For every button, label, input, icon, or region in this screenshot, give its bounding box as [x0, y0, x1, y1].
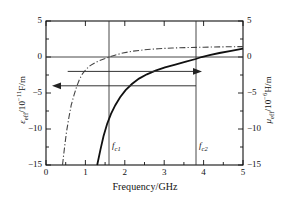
figure-container: 0 1 2 3 4 5 5 0 −5 −10 −15 5 0 −5 −10 −1… — [0, 0, 290, 202]
y-axis-right-title: μeff/10−6H/m — [261, 40, 275, 160]
x-axis-title: Frequency/GHz — [46, 181, 244, 192]
fc1-label: fc1 — [112, 140, 121, 152]
epsilon-eff-curve — [63, 47, 244, 165]
y-right-tick-label-m15: −15 — [247, 159, 273, 169]
epsilon-units-post: F/m — [17, 76, 27, 91]
fc2-label-sub: c2 — [202, 145, 208, 152]
y-axis-left-title: εeff/10−11F/m — [15, 40, 29, 160]
x-axis-ticks — [46, 21, 243, 165]
x-tick-label-3: 3 — [155, 167, 173, 177]
y-right-tick-label-5: 5 — [247, 15, 273, 25]
epsilon-subscript: eff — [22, 113, 29, 120]
plot-frame — [46, 21, 243, 165]
y-axis-left-ticks — [46, 21, 51, 165]
epsilon-symbol: ε — [17, 120, 27, 124]
mu-units-pre: /10 — [263, 100, 273, 112]
fc2-label: fc2 — [199, 140, 208, 152]
epsilon-units-pre: /10 — [17, 101, 27, 113]
y-axis-right-ticks — [238, 21, 243, 165]
y-left-tick-label-5: 5 — [16, 15, 42, 25]
mu-units-post: H/m — [263, 76, 273, 92]
x-tick-label-4: 4 — [195, 167, 213, 177]
mu-exponent: −6 — [261, 93, 268, 100]
left-axis-arrow — [52, 82, 196, 89]
mu-symbol: μ — [263, 119, 273, 124]
y-left-tick-label-m15: −15 — [16, 159, 42, 169]
x-tick-label-1: 1 — [76, 167, 94, 177]
epsilon-exponent: −11 — [15, 91, 22, 101]
right-axis-arrow — [68, 68, 202, 75]
fc1-label-sub: c1 — [115, 145, 121, 152]
mu-subscript: eff — [268, 112, 275, 119]
x-tick-label-2: 2 — [116, 167, 134, 177]
axes-border — [46, 21, 243, 165]
